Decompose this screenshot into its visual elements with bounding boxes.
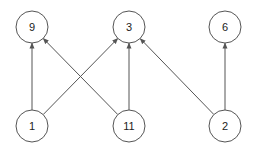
node-2: 2 <box>209 110 241 142</box>
edge-layer <box>32 38 225 114</box>
node-label: 11 <box>123 120 134 132</box>
node-label: 1 <box>29 120 35 132</box>
graph-canvas: 9361112 <box>0 0 260 148</box>
node-11: 11 <box>113 110 145 142</box>
node-6: 6 <box>209 11 241 43</box>
graph-diagram: 9361112 <box>0 0 260 148</box>
edge-2-to-3 <box>140 38 214 114</box>
node-9: 9 <box>16 11 48 43</box>
node-1: 1 <box>16 110 48 142</box>
node-label: 6 <box>222 21 228 33</box>
node-label: 3 <box>126 21 132 33</box>
edge-line <box>140 38 214 114</box>
node-label: 9 <box>29 21 35 33</box>
node-3: 3 <box>113 11 145 43</box>
node-label: 2 <box>222 120 228 132</box>
